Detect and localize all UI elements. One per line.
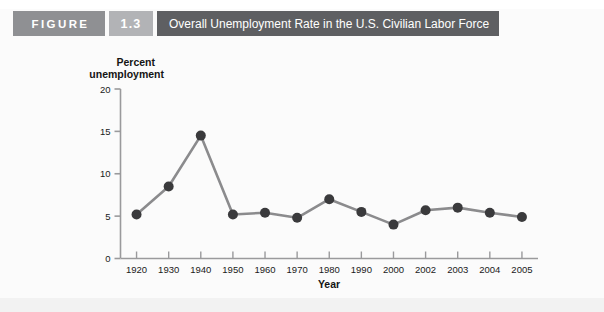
x-tick-label: 1940 [190,264,211,275]
y-axis-ticks [115,89,121,259]
x-tick-label: 1980 [319,264,340,275]
data-point-marker [356,207,366,217]
x-tick-label: 2002 [415,264,436,275]
x-tick-label: 2005 [511,264,532,275]
data-point-marker [292,213,302,223]
y-axis-label-line1: Percent [116,56,155,68]
x-axis-tick-labels: 1920193019401950196019701980199020002002… [126,264,533,275]
data-point-marker [164,181,174,191]
figure-header: FIGURE 1.3 Overall Unemployment Rate in … [13,11,499,36]
y-tick-label: 5 [105,211,110,222]
x-tick-label: 2000 [383,264,404,275]
figure-container: FIGURE 1.3 Overall Unemployment Rate in … [0,0,604,312]
bottom-shade [0,298,604,312]
data-point-marker [324,194,334,204]
y-tick-label: 20 [100,84,111,95]
data-point-marker [517,212,527,222]
y-tick-label: 0 [105,253,110,264]
top-white-strip [0,0,604,9]
figure-label-badge: FIGURE [13,11,105,36]
data-point-marker [421,205,431,215]
x-tick-label: 1950 [222,264,243,275]
figure-number-badge: 1.3 [109,11,153,36]
x-tick-label: 1920 [126,264,147,275]
y-axis-tick-labels: 05101520 [100,84,111,265]
x-axis-ticks [137,252,522,259]
data-point-marker [388,220,398,230]
unemployment-series-markers [132,131,527,230]
x-axis-label: Year [318,278,340,290]
line-chart-svg: Percent unemployment 05101520 1920193019… [0,42,604,294]
data-point-marker [453,203,463,213]
y-tick-label: 10 [100,168,111,179]
x-tick-label: 1960 [254,264,275,275]
unemployment-series-line [137,136,522,225]
y-tick-label: 15 [100,126,111,137]
data-point-marker [485,208,495,218]
figure-title: Overall Unemployment Rate in the U.S. Ci… [157,11,499,36]
x-tick-label: 1930 [158,264,179,275]
data-point-marker [132,209,142,219]
data-point-marker [228,209,238,219]
x-tick-label: 2003 [447,264,468,275]
x-tick-label: 1970 [287,264,308,275]
x-tick-label: 2004 [479,264,500,275]
y-axis-label-line2: unemployment [89,68,164,80]
chart-area: Percent unemployment 05101520 1920193019… [0,42,604,294]
x-tick-label: 1990 [351,264,372,275]
data-point-marker [260,208,270,218]
data-point-marker [196,131,206,141]
